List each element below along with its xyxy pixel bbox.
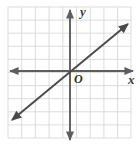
graph-canvas: [0, 0, 140, 145]
x-axis-label: x: [128, 73, 135, 86]
y-axis-label: y: [80, 5, 86, 18]
coordinate-plane-figure: y x O: [0, 0, 140, 145]
origin-label: O: [74, 73, 83, 85]
